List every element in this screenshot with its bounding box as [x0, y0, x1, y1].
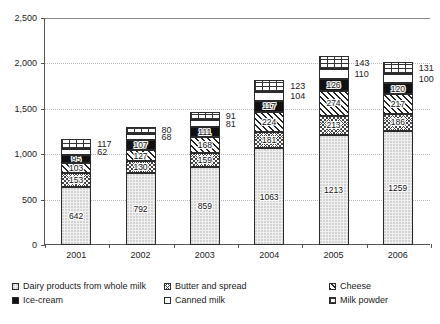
bar-segment-canned-milk[interactable]	[190, 120, 220, 127]
bar-segment-milk-powder[interactable]	[254, 80, 284, 91]
y-axis-tick-label: 0	[0, 240, 37, 250]
legend-item-label: Canned milk	[175, 295, 225, 305]
legend-item-label: Ice-cream	[23, 295, 63, 305]
y-tick-mark	[41, 109, 45, 110]
x-axis-tick-label: 2004	[259, 250, 279, 260]
legend-swatch-brick-icon	[329, 297, 336, 304]
bar-2006[interactable]: 1259186217120	[383, 18, 413, 245]
bar-segment-value: 103	[62, 164, 90, 173]
bar-segment-value: 224	[255, 118, 283, 127]
bar-segment-value: 168	[191, 141, 219, 150]
bar-segment-value: 1063	[255, 192, 283, 201]
bar-segment-butter-and-spread[interactable]: 181	[254, 132, 284, 148]
bar-segment-cheese[interactable]: 217	[383, 94, 413, 114]
bar-segment-value: 110	[355, 69, 369, 79]
chart-legend: Dairy products from whole milk Butter an…	[12, 281, 432, 309]
bar-segment-value: 642	[62, 212, 90, 221]
x-tick-mark	[302, 244, 303, 248]
bar-segment-ice-cream[interactable]: 111	[190, 127, 220, 137]
bar-segment-milk-powder[interactable]	[61, 139, 91, 150]
x-tick-mark	[109, 244, 110, 248]
x-tick-mark	[367, 244, 368, 248]
bar-segment-value: 792	[127, 205, 155, 214]
bar-segment-cheese[interactable]: 224	[254, 112, 284, 132]
bar-2001[interactable]: 64215310395	[61, 18, 91, 245]
bar-2004[interactable]: 1063181224117	[254, 18, 284, 245]
bar-segment-dairy-products-from-whole-milk[interactable]: 642	[61, 187, 91, 245]
bar-segment-butter-and-spread[interactable]: 130	[126, 161, 156, 173]
bar-segment-value: 181	[255, 136, 283, 145]
legend-row-2: Ice-cream Canned milk Milk powder	[12, 295, 432, 305]
y-axis-tick-label: 500	[0, 195, 37, 205]
bar-segment-butter-and-spread[interactable]: 159	[190, 153, 220, 167]
bar-segment-value: 123	[290, 81, 305, 91]
bar-segment-butter-and-spread[interactable]: 213	[319, 116, 349, 135]
bar-segment-value: 100	[419, 74, 434, 84]
x-axis-tick-label: 2001	[66, 250, 86, 260]
y-tick-mark	[41, 200, 45, 201]
bar-2005[interactable]: 1213213274126	[319, 18, 349, 245]
bar-segment-butter-and-spread[interactable]: 153	[61, 173, 91, 187]
bar-segment-dairy-products-from-whole-milk[interactable]: 792	[126, 173, 156, 245]
bar-segment-dairy-products-from-whole-milk[interactable]: 1063	[254, 148, 284, 245]
bar-segment-value: 859	[191, 202, 219, 211]
bar-segment-canned-milk[interactable]	[319, 69, 349, 79]
bar-2002[interactable]: 792130127107	[126, 18, 156, 245]
bar-segment-ice-cream[interactable]: 126	[319, 79, 349, 90]
legend-item-canned-milk[interactable]: Canned milk	[164, 295, 329, 305]
bar-segment-cheese[interactable]: 127	[126, 150, 156, 162]
legend-item-milk-powder[interactable]: Milk powder	[329, 295, 388, 305]
legend-swatch-blank-icon	[164, 297, 171, 304]
legend-row-1: Dairy products from whole milk Butter an…	[12, 281, 432, 291]
bar-segment-dairy-products-from-whole-milk[interactable]: 1259	[383, 131, 413, 245]
legend-swatch-crosshatch-icon	[164, 283, 171, 290]
legend-item-ice-cream[interactable]: Ice-cream	[12, 295, 164, 305]
bar-segment-dairy-products-from-whole-milk[interactable]: 859	[190, 167, 220, 245]
bar-2003[interactable]: 859159168111	[190, 18, 220, 245]
bar-segment-canned-milk[interactable]	[61, 149, 91, 155]
bar-segment-value: 1213	[320, 186, 348, 195]
y-axis-tick-label: 1,000	[0, 149, 37, 159]
bar-segment-cheese[interactable]: 103	[61, 163, 91, 172]
bar-segment-ice-cream[interactable]: 120	[383, 83, 413, 94]
bar-segment-value: 126	[320, 81, 348, 90]
bar-segment-canned-milk[interactable]	[254, 92, 284, 101]
bar-segment-canned-milk[interactable]	[126, 134, 156, 140]
legend-item-cheese[interactable]: Cheese	[329, 281, 371, 291]
bar-segment-value: 186	[384, 118, 412, 127]
x-axis-tick-label: 2002	[130, 250, 150, 260]
bar-segment-value: 274	[320, 99, 348, 108]
bar-segment-value: 120	[384, 84, 412, 93]
bar-segment-canned-milk[interactable]	[383, 74, 413, 83]
bar-segment-value: 159	[191, 156, 219, 165]
bar-segment-value: 107	[127, 141, 155, 150]
bar-segment-ice-cream[interactable]: 95	[61, 155, 91, 164]
bar-segment-value: 1259	[384, 184, 412, 193]
bar-segment-value: 117	[255, 102, 283, 111]
bar-segment-value: 153	[62, 176, 90, 185]
bar-segment-milk-powder[interactable]	[383, 62, 413, 74]
bar-segment-ice-cream[interactable]: 107	[126, 140, 156, 150]
y-axis-tick-label: 1,500	[0, 104, 37, 114]
plot-area	[44, 18, 430, 245]
bar-segment-milk-powder[interactable]	[319, 56, 349, 69]
bar-segment-cheese[interactable]: 274	[319, 91, 349, 116]
bar-segment-value: 130	[127, 163, 155, 172]
bar-segment-milk-powder[interactable]	[126, 127, 156, 134]
bar-segment-value: 91	[226, 111, 236, 121]
bar-segment-value: 104	[290, 91, 305, 101]
bar-segment-value: 111	[191, 128, 219, 137]
legend-item-label: Butter and spread	[175, 281, 247, 291]
bar-segment-butter-and-spread[interactable]: 186	[383, 114, 413, 131]
bar-segment-value: 127	[127, 151, 155, 160]
bar-segment-cheese[interactable]: 168	[190, 137, 220, 152]
legend-item-butter-and-spread[interactable]: Butter and spread	[164, 281, 329, 291]
bar-segment-dairy-products-from-whole-milk[interactable]: 1213	[319, 135, 349, 245]
bar-segment-milk-powder[interactable]	[190, 112, 220, 120]
bar-segment-ice-cream[interactable]: 117	[254, 101, 284, 112]
plot-top-rule	[45, 18, 430, 19]
bar-segment-value: 117	[97, 139, 111, 149]
y-axis-tick-label: 2,000	[0, 58, 37, 68]
bar-segment-value: 217	[384, 100, 412, 109]
legend-item-dairy-products-from-whole-milk[interactable]: Dairy products from whole milk	[12, 281, 164, 291]
